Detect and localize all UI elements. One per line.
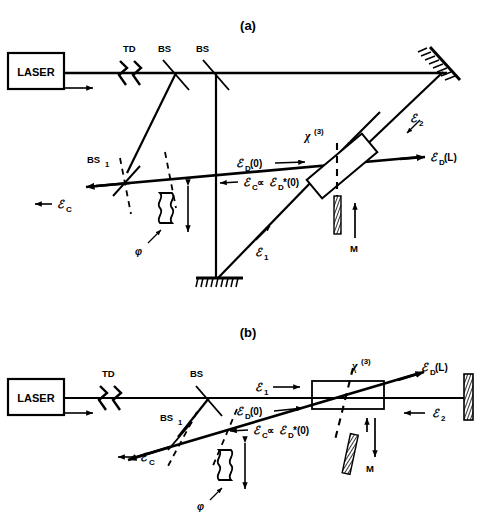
bs-label-upper-1-a: BS xyxy=(158,43,171,54)
svg-text:2: 2 xyxy=(419,119,424,128)
figure-root: (a) LASER TD BS BS xyxy=(0,0,496,513)
mirror-m-a: M xyxy=(334,196,358,254)
phi-label-a: φ xyxy=(135,246,142,257)
svg-text:(0): (0) xyxy=(250,406,262,417)
beam-e1-arrow-a xyxy=(256,226,270,240)
td-label-a: TD xyxy=(123,43,136,54)
beamsplitter-upper-2-a: BS xyxy=(196,43,229,90)
svg-text:ℰ: ℰ xyxy=(243,176,251,188)
svg-text:ℰ: ℰ xyxy=(255,246,263,258)
panel-b-caption: (b) xyxy=(240,325,257,340)
td-attenuator-b: TD xyxy=(99,368,121,410)
optical-setup-figure: (a) LASER TD BS BS xyxy=(0,0,496,513)
mirror-m-label-b: M xyxy=(366,463,374,474)
svg-text:ℰ: ℰ xyxy=(279,424,287,436)
beam-ec-label-a: ℰ C xyxy=(35,198,72,214)
beamsplitter-upper-b: BS xyxy=(190,368,222,416)
svg-text:ℰ: ℰ xyxy=(430,151,438,163)
bs1-label-b: BS xyxy=(160,412,173,423)
beam-edl-label-b: ℰ D (L) xyxy=(421,361,448,377)
mirror-right-b xyxy=(464,374,473,420)
svg-text:ℰ: ℰ xyxy=(236,157,244,169)
laser-label-b: LASER xyxy=(17,392,54,404)
laser-source-a: LASER xyxy=(8,53,64,89)
bs1-label-a: BS xyxy=(87,154,100,165)
svg-text:ℰ: ℰ xyxy=(421,361,429,373)
laser-label-a: LASER xyxy=(17,66,54,78)
phi-leader-b xyxy=(210,488,222,500)
svg-text:(L): (L) xyxy=(444,152,457,163)
beam-edl-label-a: ℰ D (L) xyxy=(430,151,457,167)
chi3-label-b: χ (3) xyxy=(350,357,371,373)
td-attenuator-a: TD xyxy=(119,43,141,85)
svg-text:C: C xyxy=(149,458,155,467)
bs-label-upper-2-a: BS xyxy=(196,43,209,54)
svg-text:ℰ: ℰ xyxy=(253,424,261,436)
svg-text:∝: ∝ xyxy=(267,425,274,436)
svg-text:χ: χ xyxy=(350,359,358,373)
dashed-axis-chi3-b xyxy=(335,368,353,440)
beam-bs-to-bs1-b xyxy=(178,398,209,437)
beam-probe-axis-b xyxy=(133,373,420,458)
svg-text:(3): (3) xyxy=(361,357,371,366)
svg-text:1: 1 xyxy=(264,253,269,262)
svg-text:ℰ: ℰ xyxy=(57,198,65,210)
bs1-sub-b: 1 xyxy=(178,418,182,427)
panel-a-caption: (a) xyxy=(240,18,256,33)
beam-e2-label-b: ℰ 2 xyxy=(404,407,446,423)
mirror-m-label-a: M xyxy=(350,243,358,254)
panel-b: (b) LASER TD BS ℰ 1 xyxy=(8,325,473,512)
svg-text:*(0): *(0) xyxy=(283,177,299,188)
svg-text:*(0): *(0) xyxy=(293,425,309,436)
svg-text:ℰ: ℰ xyxy=(140,451,148,463)
svg-text:ℰ: ℰ xyxy=(255,381,263,393)
beam-conjugate-relation-a: ℰ C ∝ ℰ D *(0) xyxy=(220,176,299,192)
svg-text:ℰ: ℰ xyxy=(432,407,440,419)
phase-distorter-a: φ xyxy=(135,152,188,257)
phase-distorter-b: φ xyxy=(197,409,245,512)
svg-text:1: 1 xyxy=(264,388,269,397)
svg-text:(L): (L) xyxy=(435,362,448,373)
panel-a: (a) LASER TD BS BS xyxy=(8,18,460,287)
bs1-sub-a: 1 xyxy=(105,160,109,169)
beam-e1-label-a: ℰ 1 xyxy=(255,246,269,262)
svg-text:2: 2 xyxy=(441,414,446,423)
phi-label-b: φ xyxy=(197,501,204,512)
laser-source-b: LASER xyxy=(8,379,64,415)
beam-bs-to-bs1-a xyxy=(127,73,176,173)
chi3-label-a: χ (3) xyxy=(303,127,324,143)
svg-text:ℰ: ℰ xyxy=(410,112,418,124)
svg-text:ℰ: ℰ xyxy=(269,176,277,188)
td-label-b: TD xyxy=(102,368,115,379)
svg-text:C: C xyxy=(66,205,72,214)
mirror-m-b: M xyxy=(342,418,375,474)
svg-text:χ: χ xyxy=(303,129,311,143)
beam-e1-label-b: ℰ 1 xyxy=(255,381,300,397)
beam-edl-output-arrow-b xyxy=(398,372,424,380)
svg-text:(0): (0) xyxy=(250,158,262,169)
beam-e2-label-a: ℰ 2 xyxy=(410,112,424,128)
mirror-bottom-a xyxy=(196,278,243,287)
svg-text:ℰ: ℰ xyxy=(236,405,244,417)
phi-leader-a xyxy=(148,230,161,243)
svg-text:∝: ∝ xyxy=(257,177,264,188)
svg-text:(3): (3) xyxy=(314,127,324,136)
bs-label-upper-b: BS xyxy=(190,368,203,379)
beamsplitter-upper-1-a: BS xyxy=(158,43,189,90)
